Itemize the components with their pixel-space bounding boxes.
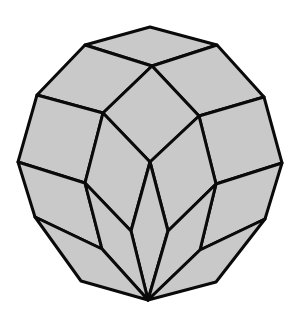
faces-group <box>18 27 282 300</box>
geometric-tiling-figure <box>0 0 296 309</box>
